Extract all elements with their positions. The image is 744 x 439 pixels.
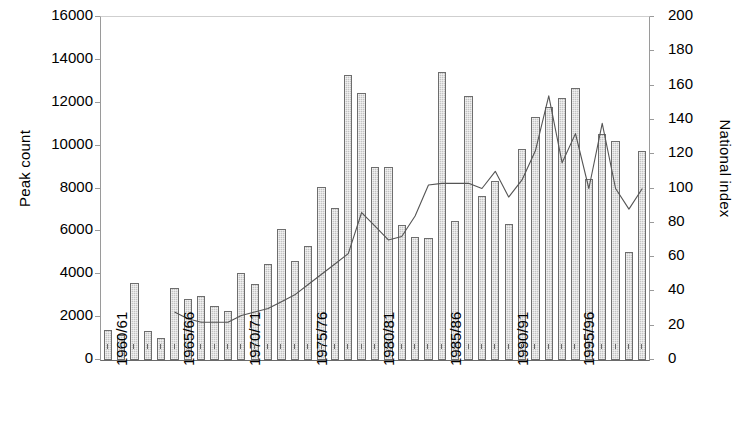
y-axis-right-tick-label: 0 bbox=[668, 349, 728, 366]
plot-area bbox=[100, 16, 650, 361]
x-axis-tick-mark bbox=[347, 344, 348, 349]
x-axis-tick-mark bbox=[214, 344, 215, 349]
x-axis-tick-mark bbox=[280, 344, 281, 349]
x-axis-tick-mark bbox=[120, 344, 121, 349]
y-axis-right-ticks: 200180160140120100806040200 bbox=[654, 0, 714, 439]
x-axis-tick-mark bbox=[174, 344, 175, 349]
y-axis-right-tick-label: 80 bbox=[668, 212, 728, 229]
y-axis-left-tick-label: 0 bbox=[33, 349, 93, 366]
y-axis-left-tick-label: 6000 bbox=[33, 220, 93, 237]
y-axis-left-title: Peak count bbox=[16, 109, 33, 229]
x-axis-tick-mark bbox=[521, 344, 522, 349]
x-axis-tick-mark bbox=[534, 344, 535, 349]
y-axis-left-tick-label: 2000 bbox=[33, 306, 93, 323]
y-axis-left-tick-label: 10000 bbox=[33, 135, 93, 152]
x-axis-tick-label: 1970/71 bbox=[246, 312, 263, 366]
x-axis-tick-mark bbox=[227, 344, 228, 349]
x-axis-tick-label: 1990/91 bbox=[514, 312, 531, 366]
x-axis-tick-mark bbox=[254, 344, 255, 349]
x-axis-tick-label: 1975/76 bbox=[313, 312, 330, 366]
y-axis-right-tick-label: 140 bbox=[668, 109, 728, 126]
x-axis-tick-mark bbox=[615, 344, 616, 349]
x-axis-tick-mark bbox=[133, 344, 134, 349]
y-axis-left-tick-label: 14000 bbox=[33, 49, 93, 66]
x-axis-tick-mark bbox=[628, 344, 629, 349]
x-axis-tick-mark bbox=[107, 344, 108, 349]
y-axis-left-ticks: 1600014000120001000080006000400020000 bbox=[33, 0, 93, 439]
x-axis-tick-mark bbox=[494, 344, 495, 349]
x-axis-tick-mark bbox=[601, 344, 602, 349]
x-axis-tick-label: 1995/96 bbox=[580, 312, 597, 366]
y-axis-right-tick-label: 120 bbox=[668, 143, 728, 160]
x-axis-tick-mark bbox=[574, 344, 575, 349]
x-axis-tick-mark bbox=[267, 344, 268, 349]
y-axis-left-tick-label: 8000 bbox=[33, 178, 93, 195]
x-axis-tick-mark bbox=[361, 344, 362, 349]
chart-figure: Peak count National index 16000140001200… bbox=[0, 0, 744, 439]
x-axis-tick-label: 1980/81 bbox=[380, 312, 397, 366]
x-axis-tick-mark bbox=[588, 344, 589, 349]
x-axis-tick-mark bbox=[307, 344, 308, 349]
x-axis-tick-mark bbox=[441, 344, 442, 349]
y-axis-right-tick-label: 20 bbox=[668, 315, 728, 332]
national-index-line bbox=[175, 96, 643, 322]
x-axis-tick-label: 1965/66 bbox=[180, 312, 197, 366]
x-axis-tick-mark bbox=[160, 344, 161, 349]
x-axis-tick-mark bbox=[414, 344, 415, 349]
x-axis-tick-mark bbox=[187, 344, 188, 349]
y-axis-left-tick-label: 12000 bbox=[33, 92, 93, 109]
x-axis-tick-mark bbox=[561, 344, 562, 349]
x-axis-tick-mark bbox=[481, 344, 482, 349]
x-axis-tick-label: 1985/86 bbox=[447, 312, 464, 366]
x-axis-tick-mark bbox=[374, 344, 375, 349]
x-axis-tick-mark bbox=[321, 344, 322, 349]
x-axis-tick-mark bbox=[200, 344, 201, 349]
x-axis-tick-mark bbox=[454, 344, 455, 349]
x-axis-tick-mark bbox=[427, 344, 428, 349]
y-axis-right-tick-label: 60 bbox=[668, 246, 728, 263]
line-series bbox=[101, 17, 649, 360]
x-axis-tick-label: 1960/61 bbox=[113, 312, 130, 366]
y-axis-right-tick-label: 200 bbox=[668, 6, 728, 23]
x-axis-tick-mark bbox=[387, 344, 388, 349]
x-axis-tick-mark bbox=[548, 344, 549, 349]
x-axis-tick-mark bbox=[401, 344, 402, 349]
y-axis-left-tick-label: 4000 bbox=[33, 263, 93, 280]
x-axis-tick-mark bbox=[641, 344, 642, 349]
y-axis-right-tick-label: 100 bbox=[668, 178, 728, 195]
y-axis-right-tick-label: 180 bbox=[668, 40, 728, 57]
x-axis-tick-mark bbox=[240, 344, 241, 349]
x-axis-tick-mark bbox=[334, 344, 335, 349]
x-axis-tick-mark bbox=[147, 344, 148, 349]
x-axis-tick-mark bbox=[294, 344, 295, 349]
y-axis-left-tick-label: 16000 bbox=[33, 6, 93, 23]
x-axis-tick-mark bbox=[468, 344, 469, 349]
x-axis-tick-mark bbox=[508, 344, 509, 349]
y-axis-right-tick-label: 40 bbox=[668, 280, 728, 297]
y-axis-right-tick-label: 160 bbox=[668, 75, 728, 92]
